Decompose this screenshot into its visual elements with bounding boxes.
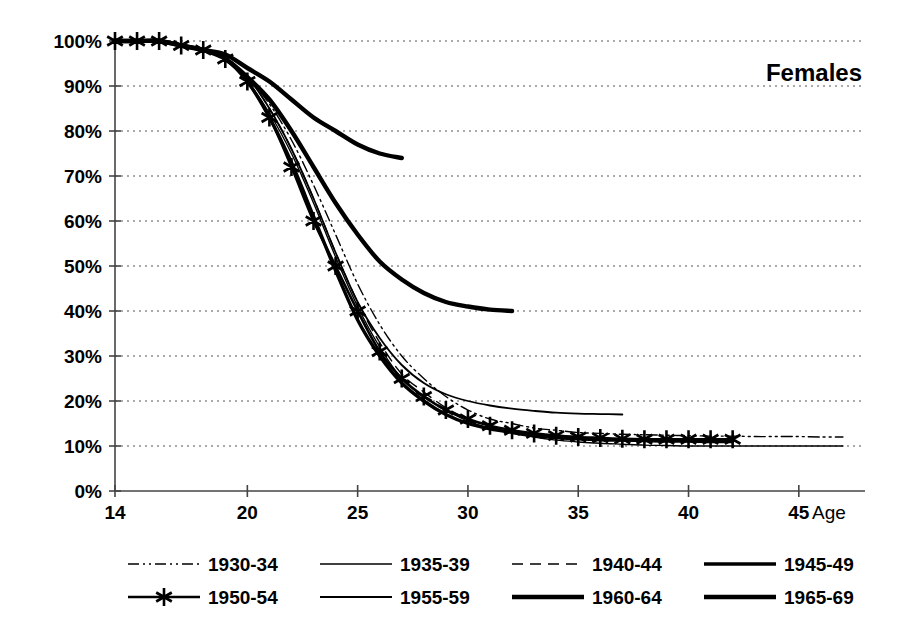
x-tick-label: 35 bbox=[568, 502, 590, 523]
x-axis-title: Age bbox=[812, 502, 846, 523]
y-tick-label: 20% bbox=[64, 391, 102, 412]
chart-legend: 1930-341935-391940-441945-491950-541955-… bbox=[128, 554, 854, 608]
legend-label-1965-69[interactable]: 1965-69 bbox=[784, 587, 854, 608]
y-tick-label: 80% bbox=[64, 121, 102, 142]
legend-label-1940-44[interactable]: 1940-44 bbox=[592, 554, 662, 575]
series-line-1940-44 bbox=[115, 41, 733, 442]
y-tick-label: 70% bbox=[64, 166, 102, 187]
series-line-1935-39 bbox=[115, 41, 843, 446]
legend-label-1950-54[interactable]: 1950-54 bbox=[208, 587, 278, 608]
series-line-1930-34 bbox=[115, 41, 843, 437]
chart-container: 0%10%20%30%40%50%60%70%80%90%100% 142025… bbox=[0, 0, 906, 623]
y-tick-label: 10% bbox=[64, 436, 102, 457]
chart-title: Females bbox=[766, 59, 862, 86]
y-tick-label: 30% bbox=[64, 346, 102, 367]
data-series-group bbox=[107, 32, 843, 448]
x-tick-label: 20 bbox=[237, 502, 258, 523]
line-chart: 0%10%20%30%40%50%60%70%80%90%100% 142025… bbox=[0, 0, 906, 623]
x-tick-label: 45 bbox=[788, 502, 810, 523]
legend-label-1945-49[interactable]: 1945-49 bbox=[784, 554, 854, 575]
x-tick-label: 40 bbox=[678, 502, 699, 523]
series-line-1945-49 bbox=[115, 41, 733, 442]
y-tick-label: 0% bbox=[75, 481, 103, 502]
legend-label-1930-34[interactable]: 1930-34 bbox=[208, 554, 278, 575]
y-tick-label: 90% bbox=[64, 76, 102, 97]
legend-label-1960-64[interactable]: 1960-64 bbox=[592, 587, 662, 608]
series-markers-1950-54 bbox=[107, 32, 740, 448]
x-tick-label: 25 bbox=[347, 502, 369, 523]
legend-label-1935-39[interactable]: 1935-39 bbox=[400, 554, 470, 575]
x-tick-label: 30 bbox=[457, 502, 478, 523]
x-tick-label: 14 bbox=[104, 502, 126, 523]
y-axis-tick-labels: 0%10%20%30%40%50%60%70%80%90%100% bbox=[53, 31, 102, 502]
y-tick-label: 50% bbox=[64, 256, 102, 277]
gridlines bbox=[115, 41, 865, 446]
y-tick-label: 40% bbox=[64, 301, 102, 322]
y-tick-label: 60% bbox=[64, 211, 102, 232]
y-tick-label: 100% bbox=[53, 31, 102, 52]
series-line-1955-59 bbox=[115, 41, 622, 415]
x-axis-tick-labels: 14202530354045 bbox=[104, 502, 809, 523]
legend-label-1955-59[interactable]: 1955-59 bbox=[400, 587, 470, 608]
series-line-1950-54 bbox=[115, 41, 733, 440]
